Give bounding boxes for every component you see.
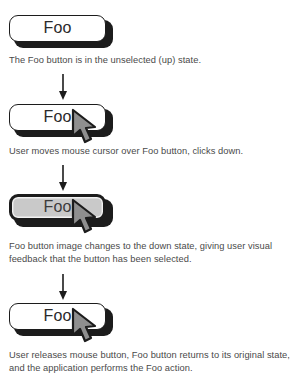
connector-1-to-2	[56, 74, 70, 100]
stage-4-caption: User releases mouse button, Foo button r…	[9, 349, 301, 375]
button-face[interactable]: Foo	[9, 303, 106, 330]
stage-1-caption: The Foo button is in the unselected (up)…	[9, 54, 301, 67]
connector-3-to-4	[56, 274, 70, 300]
stage-2-caption: User moves mouse cursor over Foo button,…	[9, 145, 301, 158]
button-label: Foo	[43, 109, 71, 125]
foo-button-up-1[interactable]: Foo	[9, 15, 117, 51]
foo-button-down[interactable]: Foo	[9, 194, 117, 230]
foo-button-up-3[interactable]: Foo	[9, 303, 117, 339]
button-face[interactable]: Foo	[9, 194, 106, 221]
foo-button-up-2[interactable]: Foo	[9, 104, 117, 140]
button-label: Foo	[43, 308, 71, 324]
stage-3-caption: Foo button image changes to the down sta…	[9, 240, 301, 266]
button-face[interactable]: Foo	[9, 15, 106, 42]
button-label: Foo	[43, 199, 71, 215]
button-face[interactable]: Foo	[9, 104, 106, 131]
button-label: Foo	[43, 20, 71, 36]
connector-2-to-3	[56, 165, 70, 191]
